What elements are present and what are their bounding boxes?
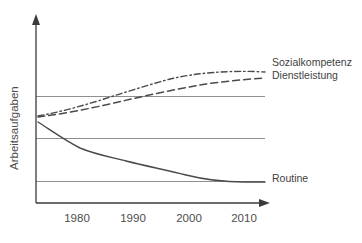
series-line-routine	[38, 122, 265, 182]
x-tick-label-2010: 2010	[231, 212, 257, 224]
series-label-dienstleistung: Dienstleistung	[272, 69, 338, 81]
series-label-sozialkompetenz: Sozialkompetenz	[272, 56, 352, 68]
x-axis	[36, 199, 270, 207]
y-axis-title: Arbeitsaufgaben	[8, 86, 20, 170]
x-tick-label-2000: 2000	[176, 212, 202, 224]
series-label-routine: Routine	[272, 172, 308, 184]
line-chart: Arbeitsaufgaben 1980 1990 2000 2010 Sozi…	[0, 0, 362, 243]
y-axis-arrow-icon	[32, 14, 40, 25]
x-tick-label-1980: 1980	[64, 212, 90, 224]
chart-container: Arbeitsaufgaben 1980 1990 2000 2010 Sozi…	[0, 0, 362, 243]
x-axis-arrow-icon	[259, 199, 270, 207]
x-tick-label-1990: 1990	[120, 212, 146, 224]
y-axis	[32, 14, 40, 203]
series-line-sozialkompetenz	[38, 71, 265, 116]
